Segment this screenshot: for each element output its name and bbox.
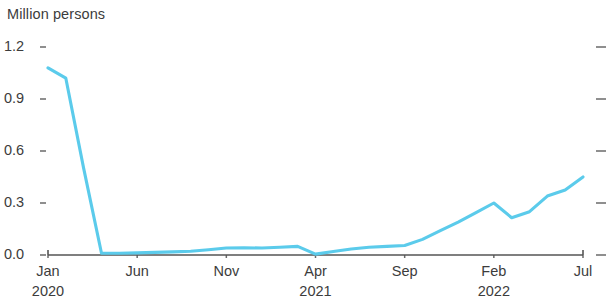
plot-area (0, 0, 608, 305)
line-chart: Million persons 0.00.30.60.91.2 Jan2020J… (0, 0, 608, 305)
data-series-line (48, 68, 583, 254)
tick-marks (40, 47, 606, 258)
